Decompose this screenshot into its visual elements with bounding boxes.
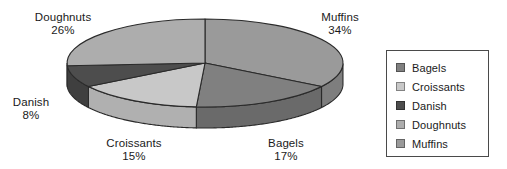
- legend-swatch-icon: [396, 101, 405, 110]
- slice-label-doughnuts-percent: 26%: [20, 24, 106, 37]
- legend-item-bagels: Bagels: [396, 58, 484, 77]
- slice-label-muffins: Muffins 34%: [297, 11, 383, 36]
- slice-label-danish-percent: 8%: [0, 109, 64, 122]
- legend-swatch-icon: [396, 82, 405, 91]
- slice-label-doughnuts-name: Doughnuts: [35, 11, 92, 23]
- legend-item-croissants: Croissants: [396, 77, 484, 96]
- legend-item-label: Doughnuts: [412, 119, 466, 131]
- legend-swatch-icon: [396, 120, 405, 129]
- slice-label-croissants-name: Croissants: [106, 137, 161, 149]
- legend-item-doughnuts: Doughnuts: [396, 115, 484, 134]
- legend-swatch-icon: [396, 139, 405, 148]
- slice-label-danish-name: Danish: [13, 96, 49, 108]
- legend-swatch-icon: [396, 63, 405, 72]
- legend-item-label: Croissants: [412, 81, 465, 93]
- slice-label-bagels-name: Bagels: [268, 137, 304, 149]
- legend-item-label: Bagels: [412, 62, 446, 74]
- slice-label-bagels-percent: 17%: [248, 150, 324, 163]
- legend-item-list: BagelsCroissantsDanishDoughnutsMuffins: [396, 58, 484, 153]
- slice-label-danish: Danish 8%: [0, 96, 64, 121]
- chart-legend: BagelsCroissantsDanishDoughnutsMuffins: [386, 50, 489, 157]
- slice-label-muffins-percent: 34%: [297, 24, 383, 37]
- slice-label-croissants: Croissants 15%: [86, 137, 182, 162]
- pie-chart-figure: Doughnuts 26% Muffins 34% Danish 8% Croi…: [0, 0, 507, 169]
- legend-item-danish: Danish: [396, 96, 484, 115]
- legend-item-muffins: Muffins: [396, 134, 484, 153]
- slice-label-doughnuts: Doughnuts 26%: [20, 11, 106, 36]
- slice-label-muffins-name: Muffins: [321, 11, 359, 23]
- legend-item-label: Danish: [412, 100, 447, 112]
- legend-item-label: Muffins: [412, 138, 448, 150]
- slice-label-bagels: Bagels 17%: [248, 137, 324, 162]
- slice-label-croissants-percent: 15%: [86, 150, 182, 163]
